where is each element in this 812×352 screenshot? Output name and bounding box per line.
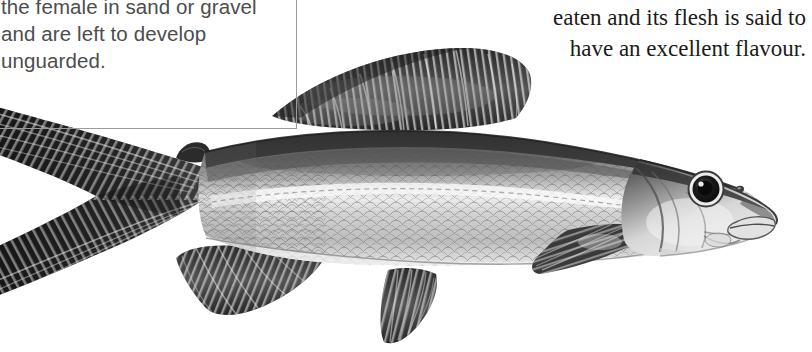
eye	[689, 172, 724, 207]
body-text: eaten and its flesh is said to have an e…	[476, 2, 806, 64]
page-canvas: shallow depression dug by the female in …	[0, 0, 812, 352]
nostril	[736, 186, 744, 192]
